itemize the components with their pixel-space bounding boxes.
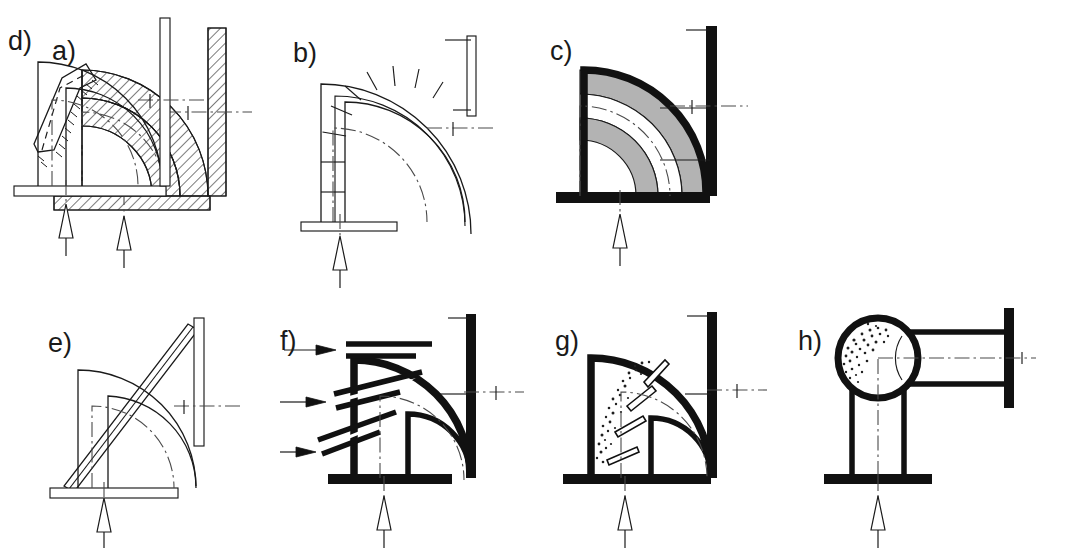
- panel-g-flow-arrow: [618, 496, 632, 548]
- panel-b-wall: [321, 84, 471, 234]
- panel-e-centerline-arc: [92, 406, 174, 488]
- panel-b-flow-arrow: [333, 236, 347, 288]
- panel-d-outlet-flange: [160, 18, 170, 186]
- panel-b-label: b): [293, 40, 317, 67]
- panel-f-flow-arrow: [377, 496, 391, 548]
- panel-f-inlet-flange: [328, 474, 452, 484]
- panel-e: e): [30, 300, 280, 550]
- panel-h-flow-arrow: [871, 496, 885, 548]
- panel-f: f): [280, 300, 550, 550]
- panel-g-drawing: [545, 300, 795, 550]
- panel-c-flow-arrow: [613, 214, 627, 266]
- panel-g-inlet-flange: [563, 474, 711, 484]
- panel-g-outlet-flange: [707, 312, 717, 478]
- panel-f-nozzle-2: [334, 372, 422, 408]
- panel-g-deposit: [596, 361, 650, 464]
- panel-e-inlet-flange: [50, 488, 178, 498]
- panel-c-outlet-flange: [706, 26, 717, 196]
- panel-b-centerline-arc: [333, 128, 427, 222]
- panel-f-inflow-arrow-2: [280, 397, 326, 407]
- panel-b-outlet-flange: [467, 36, 476, 116]
- panel-d-label: d): [8, 28, 32, 55]
- panel-f-inflow-arrows: [280, 345, 336, 457]
- panel-e-flow-arrow: [97, 498, 111, 548]
- panel-h-label: h): [798, 328, 822, 355]
- panel-f-drawing: [280, 300, 550, 550]
- panel-d-inlet-flange: [14, 186, 166, 196]
- panel-e-outlet-flange: [194, 318, 204, 446]
- panel-d-weld-ticks: [38, 80, 98, 167]
- panel-d-flow-arrow: [59, 204, 73, 256]
- panel-e-wall: [78, 370, 196, 488]
- panel-g-label: g): [555, 328, 579, 355]
- panel-e-label: e): [48, 330, 72, 357]
- panel-b-inlet-flange: [301, 222, 397, 231]
- panel-b: b): [285, 10, 535, 290]
- panel-g: g): [545, 300, 795, 550]
- panel-d: d): [0, 0, 250, 265]
- panel-f-label: f): [280, 328, 297, 355]
- panel-d-drawing: [0, 0, 250, 265]
- panel-h: h): [790, 300, 1060, 550]
- panel-f-nozzle-1: [346, 344, 432, 356]
- panel-f-outlet-flange: [466, 314, 476, 478]
- panel-h-drawing: [790, 300, 1060, 550]
- panel-b-drawing: [285, 10, 535, 290]
- panel-c: c): [540, 10, 790, 275]
- panel-f-inflow-arrow-3: [280, 447, 316, 457]
- elbow-variants-figure: a): [0, 0, 1074, 559]
- panel-d-centerline-arc: [52, 100, 138, 186]
- panel-e-chord-bar: [64, 324, 198, 492]
- panel-c-label: c): [550, 38, 573, 65]
- panel-c-drawing: [540, 10, 790, 275]
- panel-c-inlet-flange: [556, 192, 710, 203]
- panel-d-wall: [38, 62, 162, 186]
